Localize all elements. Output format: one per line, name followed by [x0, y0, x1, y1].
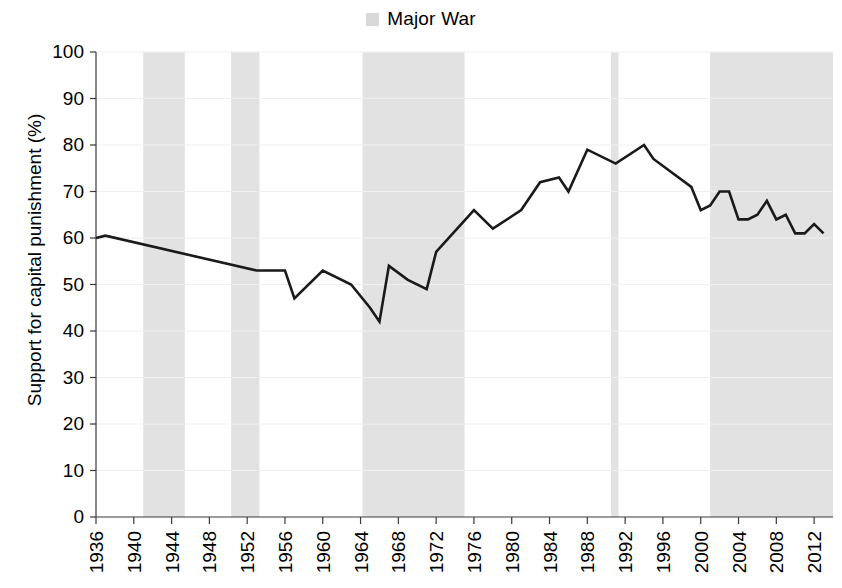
x-tick-label: 1952 [237, 531, 258, 573]
x-tick-label: 1960 [313, 531, 334, 573]
y-tick-label: 90 [63, 88, 84, 109]
y-tick-label: 80 [63, 134, 84, 155]
x-axis-ticks: 1936194019441948195219561960196419681972… [86, 517, 825, 573]
x-tick-label: 1988 [577, 531, 598, 573]
capital-punishment-support-chart: Major War Support for capital punishment… [0, 0, 842, 588]
y-tick-label: 0 [73, 506, 84, 527]
x-tick-label: 1972 [426, 531, 447, 573]
x-tick-label: 1992 [615, 531, 636, 573]
y-tick-label: 100 [52, 41, 84, 62]
x-tick-label: 2008 [766, 531, 787, 573]
x-tick-label: 1936 [86, 531, 107, 573]
x-tick-label: 1956 [275, 531, 296, 573]
x-tick-label: 1976 [464, 531, 485, 573]
x-tick-label: 1964 [351, 531, 372, 574]
x-tick-label: 1996 [653, 531, 674, 573]
x-tick-label: 1984 [540, 531, 561, 574]
y-tick-label: 20 [63, 413, 84, 434]
x-tick-label: 2004 [729, 531, 750, 574]
y-tick-label: 50 [63, 274, 84, 295]
y-tick-label: 40 [63, 320, 84, 341]
plot-canvas: 0102030405060708090100 19361940194419481… [0, 0, 842, 588]
x-tick-label: 2000 [691, 531, 712, 573]
x-tick-label: 2012 [804, 531, 825, 573]
y-tick-label: 70 [63, 181, 84, 202]
x-tick-label: 1980 [502, 531, 523, 573]
y-tick-label: 60 [63, 227, 84, 248]
x-tick-label: 1940 [124, 531, 145, 573]
x-tick-label: 1968 [388, 531, 409, 573]
x-tick-label: 1948 [199, 531, 220, 573]
y-tick-label: 10 [63, 460, 84, 481]
y-tick-label: 30 [63, 367, 84, 388]
y-axis-ticks: 0102030405060708090100 [52, 41, 96, 527]
x-tick-label: 1944 [162, 531, 183, 574]
